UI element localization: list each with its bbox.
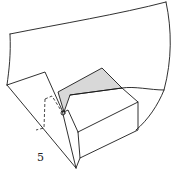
paper-right-edge xyxy=(136,2,170,130)
shaded-inner-face xyxy=(58,68,122,112)
box-bottom-edge xyxy=(76,158,80,168)
box-top-front-edge xyxy=(70,88,138,132)
back-crease xyxy=(122,87,164,90)
box-front-face xyxy=(78,102,138,158)
paper-top-edge xyxy=(10,2,166,34)
step-number: 5 xyxy=(37,151,44,164)
paper-left-edge xyxy=(7,34,10,85)
fold-diagram xyxy=(0,0,185,175)
